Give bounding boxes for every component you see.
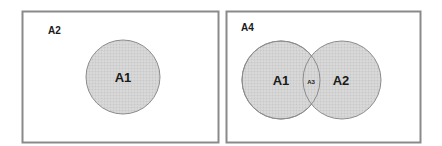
set-label-a1-right: A1 (273, 73, 290, 88)
set-label-a1-left: A1 (115, 70, 132, 85)
universe-label-right: A4 (241, 22, 254, 33)
intersection-label-a3: A3 (307, 79, 315, 85)
venn-single-set: A2 A1 (23, 12, 219, 143)
universe-label-left: A2 (48, 25, 61, 36)
venn-diagrams: A2 A1 A4 A1 A3 A2 (0, 0, 442, 146)
venn-two-set-overlap: A4 A1 A3 A2 (227, 12, 421, 143)
set-label-a2-right: A2 (333, 73, 350, 88)
